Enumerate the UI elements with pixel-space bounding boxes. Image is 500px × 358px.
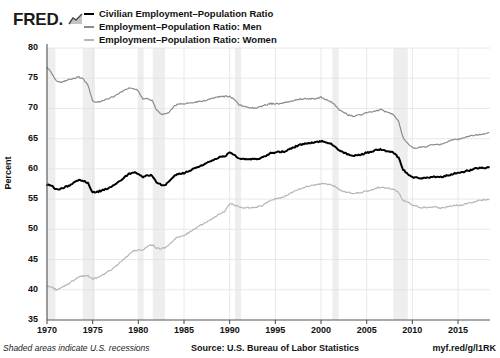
recession-band [393, 48, 407, 320]
recession-band [139, 48, 144, 320]
source-note: Source: U.S. Bureau of Labor Statistics [191, 343, 359, 353]
short-url[interactable]: myf.red/g/l1RK [432, 343, 496, 353]
recession-band [332, 48, 338, 320]
series-line [47, 67, 489, 148]
fred-chart: FRED. Civilian Employment–Population Rat… [0, 0, 500, 358]
recession-band [235, 48, 241, 320]
recession-note: Shaded areas indicate U.S. recessions [3, 343, 149, 353]
series-line [47, 141, 489, 193]
plot-area [0, 0, 500, 358]
